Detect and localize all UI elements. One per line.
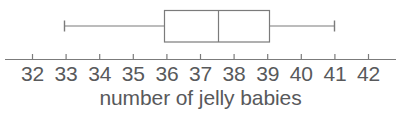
x-tick-label: 38 (223, 63, 246, 84)
x-tick-label: 42 (357, 63, 380, 84)
x-tick-label: 36 (155, 63, 178, 84)
box-plot-figure: 32 33 34 35 36 37 38 39 40 41 42 number … (0, 0, 401, 118)
x-tick-label: 33 (55, 63, 78, 84)
box-group (165, 11, 270, 43)
interquartile-box (165, 11, 270, 43)
x-tick-label: 34 (88, 63, 111, 84)
x-tick-label: 37 (189, 63, 212, 84)
x-tick-label: 32 (21, 63, 44, 84)
x-axis-caption: number of jelly babies (0, 86, 401, 110)
x-tick-label: 39 (256, 63, 279, 84)
x-tick-label: 40 (290, 63, 313, 84)
x-tick-label: 41 (323, 63, 346, 84)
x-axis-group (5, 54, 396, 60)
x-tick-label: 35 (122, 63, 145, 84)
